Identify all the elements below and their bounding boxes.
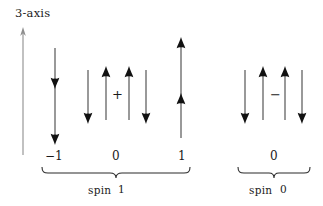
- state-spin1-m-plus1: [177, 37, 186, 138]
- state-spin1-m-minus1: [51, 48, 60, 145]
- plus-sign-spin1-m0: +: [112, 88, 123, 101]
- brace-spin-1: [42, 167, 190, 178]
- tick-label-spin0-m-0: 0: [270, 150, 278, 162]
- state-spin0-term-1: [241, 66, 268, 124]
- brace-label-spin-1-text: spin: [88, 185, 111, 196]
- figure-graphics: [0, 0, 323, 206]
- axis-label: 3-axis: [15, 8, 50, 20]
- state-spin1-m-0-term-2: [125, 66, 151, 124]
- spin-states-figure: 3-axis −1 0 1 0 + − spin 1 spin 0: [0, 0, 323, 206]
- brace-label-spin-1-value: 1: [118, 184, 125, 195]
- tick-label-m-0: 0: [112, 150, 120, 162]
- brace-label-spin-0-value: 0: [280, 184, 287, 195]
- tick-label-m-plus1: 1: [178, 150, 186, 162]
- state-spin0-term-2: [281, 66, 307, 124]
- minus-sign-spin0: −: [270, 88, 281, 101]
- brace-spin-0: [238, 167, 310, 178]
- tick-label-m-minus1: −1: [45, 150, 63, 162]
- brace-label-spin-0-text: spin: [249, 185, 272, 196]
- three-axis: [20, 27, 26, 155]
- state-spin1-m-0-term-1: [84, 66, 111, 124]
